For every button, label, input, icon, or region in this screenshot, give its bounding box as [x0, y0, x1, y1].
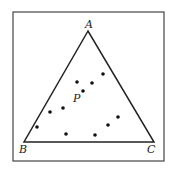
data-point — [35, 125, 39, 129]
data-point — [48, 110, 52, 114]
data-point — [61, 106, 65, 110]
vertex-label-b: B — [18, 143, 27, 156]
data-point — [64, 132, 68, 136]
triangle-abc — [24, 31, 154, 142]
frame-border — [13, 12, 164, 161]
data-point — [93, 133, 97, 137]
point-label-p: P — [72, 92, 81, 105]
data-point — [116, 115, 120, 119]
vertex-label-c: C — [147, 143, 156, 156]
data-point — [75, 80, 79, 84]
data-point — [81, 89, 85, 93]
data-point — [90, 81, 94, 85]
vertex-label-a: A — [84, 18, 93, 31]
triangle-diagram: A B C P — [0, 0, 172, 171]
data-point — [101, 72, 105, 76]
data-point — [106, 123, 110, 127]
